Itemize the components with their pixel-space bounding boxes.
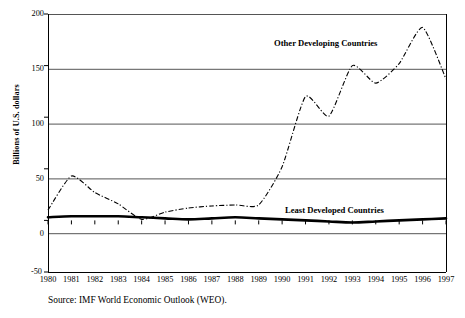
- x-axis-tick-label: 1981: [58, 276, 84, 284]
- x-axis-tick-label: 1990: [269, 276, 295, 284]
- x-axis-tick-label: 1989: [246, 276, 272, 284]
- x-axis-tick-label: 1992: [316, 276, 342, 284]
- x-axis-tick-label: 1995: [386, 276, 412, 284]
- y-axis-tick-label: 50: [20, 175, 44, 183]
- x-axis-tick-label: 1987: [199, 276, 225, 284]
- gridlines: [48, 15, 446, 234]
- x-axis-tick-label: 1980: [35, 276, 61, 284]
- y-axis-tick-label: 100: [20, 120, 44, 128]
- x-axis-tick-label: 1993: [339, 276, 365, 284]
- x-axis-tick-label: 1984: [129, 276, 155, 284]
- x-axis-tick-label: 1983: [105, 276, 131, 284]
- chart-figure: Billions of U.S. dollars 200 150 100 50 …: [0, 0, 465, 318]
- source-note: Source: IMF World Economic Outlook (WEO)…: [48, 295, 227, 305]
- y-axis-ticks: [44, 14, 48, 272]
- x-axis-tick-label: 1985: [152, 276, 178, 284]
- x-axis-tick-label: 1997: [433, 276, 459, 284]
- x-axis-tick-label: 1991: [293, 276, 319, 284]
- x-axis-tick-label: 1994: [363, 276, 389, 284]
- series-line-least-developed-countries: [48, 216, 446, 222]
- series-annotation-other-developing-countries: Other Developing Countries: [274, 38, 377, 48]
- x-axis-tick-label: 1986: [175, 276, 201, 284]
- y-axis-tick-label: 200: [20, 10, 44, 18]
- chart-plot-area: [0, 0, 465, 318]
- series-line-other-developing-countries: [48, 27, 446, 219]
- y-axis-tick-label: 150: [20, 65, 44, 73]
- x-axis-tick-label: 1988: [222, 276, 248, 284]
- x-axis-tick-label: 1982: [82, 276, 108, 284]
- series-annotation-least-developed-countries: Least Developed Countries: [285, 205, 384, 215]
- x-axis-tick-label: 1996: [410, 276, 436, 284]
- y-axis-tick-label: 0: [20, 230, 44, 238]
